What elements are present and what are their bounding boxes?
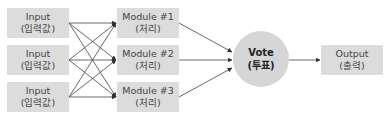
input-box-2: Input (입력값) (7, 45, 69, 75)
input-subtitle: (입력값) (21, 23, 55, 35)
vote-subtitle: (투표) (247, 59, 274, 72)
module-subtitle: (처리) (135, 97, 160, 109)
module-box-1: Module #1 (처리) (117, 8, 179, 38)
module-box-3: Module #3 (처리) (117, 82, 179, 112)
input-subtitle: (입력값) (21, 97, 55, 109)
input-title: Input (26, 48, 51, 60)
vote-title: Vote (248, 46, 274, 59)
module-box-2: Module #2 (처리) (117, 45, 179, 75)
module-title: Module #1 (122, 11, 174, 23)
module-subtitle: (처리) (135, 60, 160, 72)
module-title: Module #3 (122, 85, 174, 97)
vote-node: Vote (투표) (233, 31, 289, 87)
output-box: Output (출력) (321, 45, 383, 75)
input-box-3: Input (입력값) (7, 82, 69, 112)
input-title: Input (26, 85, 51, 97)
input-subtitle: (입력값) (21, 60, 55, 72)
input-box-1: Input (입력값) (7, 8, 69, 38)
output-subtitle: (출력) (339, 60, 364, 72)
output-title: Output (336, 48, 369, 60)
module-subtitle: (처리) (135, 23, 160, 35)
module-title: Module #2 (122, 48, 174, 60)
input-title: Input (26, 11, 51, 23)
